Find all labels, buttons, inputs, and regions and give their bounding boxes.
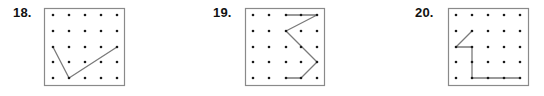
peg-dot: [455, 46, 458, 49]
peg-dot: [503, 61, 506, 64]
peg-dot: [471, 30, 474, 33]
peg-dot: [471, 77, 474, 80]
peg-dot: [503, 77, 506, 80]
peg-dot: [519, 77, 522, 80]
peg-dot: [455, 30, 458, 33]
peg-dot: [519, 14, 522, 17]
peg-dot: [487, 61, 490, 64]
peg-dot: [487, 14, 490, 17]
geoboard-grid: [0, 0, 544, 96]
peg-dot: [455, 61, 458, 64]
peg-dot: [471, 46, 474, 49]
problem-20: 20.: [0, 0, 544, 96]
peg-dot: [519, 61, 522, 64]
peg-dot: [471, 61, 474, 64]
peg-dot: [487, 30, 490, 33]
peg-dot: [487, 77, 490, 80]
peg-dot: [503, 30, 506, 33]
peg-dot: [503, 14, 506, 17]
peg-dot: [503, 46, 506, 49]
peg-dot: [455, 14, 458, 17]
peg-dot: [471, 14, 474, 17]
peg-dot: [519, 30, 522, 33]
peg-dot: [519, 46, 522, 49]
peg-dot: [455, 77, 458, 80]
peg-dot: [487, 46, 490, 49]
